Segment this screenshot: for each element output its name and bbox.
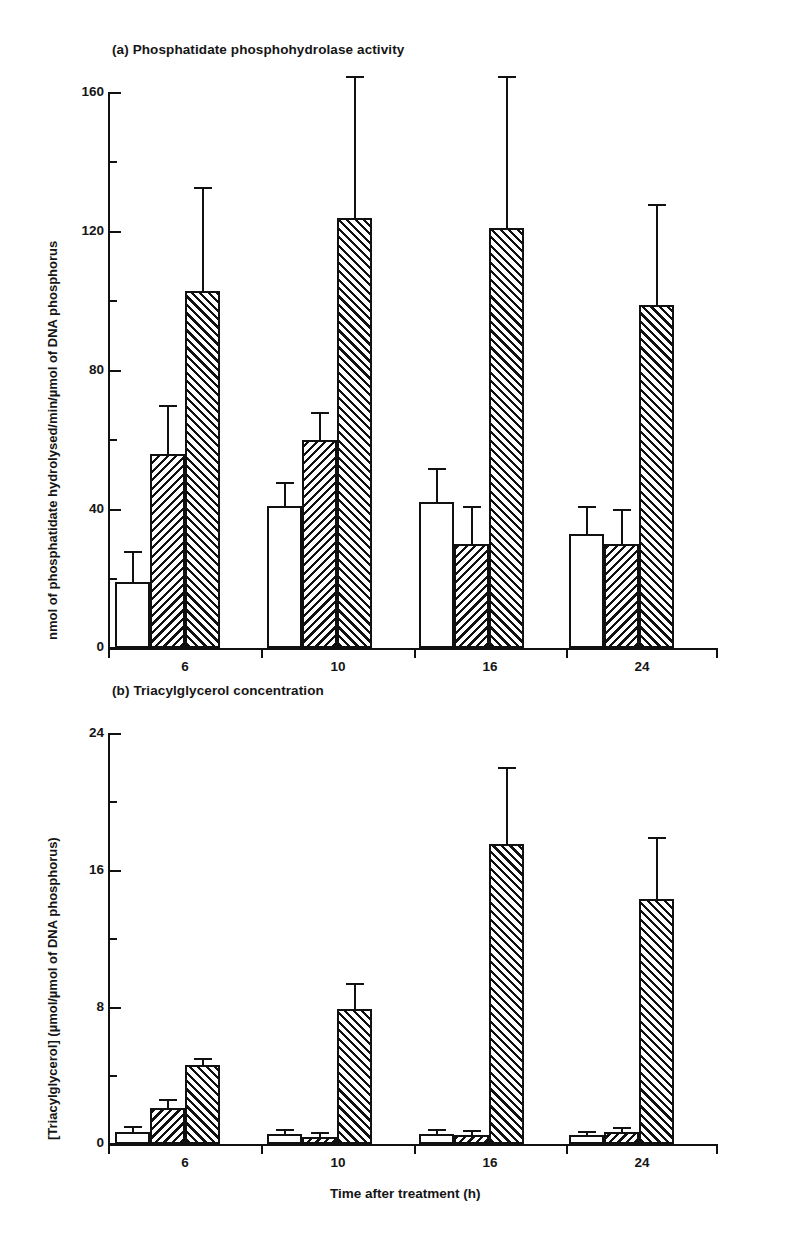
errorbar-cap-b-16h-open bbox=[428, 1129, 446, 1131]
panel-b-plot-area bbox=[110, 733, 718, 1144]
bar-b-6h-hatched-forwardslash bbox=[185, 1065, 220, 1144]
panel-b-xtick-sep-1 bbox=[108, 1146, 110, 1154]
panel-b-x-axis bbox=[108, 1144, 718, 1146]
errorbar-cap-b-16h-hatched-forwardslash bbox=[498, 767, 516, 769]
bar-b-24h-open bbox=[569, 1135, 604, 1144]
panel-b-xaxis-title: Time after treatment (h) bbox=[330, 1186, 481, 1201]
bar-b-6h-hatched-backslash bbox=[150, 1108, 185, 1144]
panel-b-ylabel-16: 16 bbox=[58, 862, 104, 877]
panel-b-xtick-sep-3 bbox=[414, 1146, 416, 1154]
panel-b-xlabel-24: 24 bbox=[612, 1155, 672, 1170]
errorbar-cap-b-6h-open bbox=[124, 1126, 142, 1128]
bar-b-10h-hatched-backslash bbox=[302, 1137, 337, 1144]
panel-b-ylabel: [Triacylglycerol] (µmol/µmol of DNA phos… bbox=[45, 837, 60, 1140]
figure-root: (a) Phosphatidate phosphohydrolase activ… bbox=[0, 0, 805, 1249]
panel-b: (b) Triacylglycerol concentration [Triac… bbox=[0, 0, 805, 1249]
panel-b-xlabel-10: 10 bbox=[308, 1155, 368, 1170]
bar-b-16h-hatched-backslash bbox=[454, 1135, 489, 1144]
bar-b-24h-hatched-backslash bbox=[604, 1132, 639, 1144]
errorbar-cap-b-24h-open bbox=[578, 1131, 596, 1133]
panel-b-xtick-sep-4 bbox=[566, 1146, 568, 1154]
errorbar-b-24h-hatched-forwardslash bbox=[656, 837, 658, 899]
errorbar-b-16h-hatched-forwardslash bbox=[506, 767, 508, 844]
panel-b-xlabel-16: 16 bbox=[460, 1155, 520, 1170]
bar-b-10h-hatched-forwardslash bbox=[337, 1009, 372, 1144]
errorbar-cap-b-10h-hatched-forwardslash bbox=[346, 983, 364, 985]
panel-b-ylabel-8: 8 bbox=[58, 999, 104, 1014]
panel-b-ylabel-0: 0 bbox=[58, 1135, 104, 1150]
bar-b-6h-open bbox=[115, 1132, 150, 1144]
panel-b-xlabel-6: 6 bbox=[155, 1155, 215, 1170]
panel-b-xtick-sep-5 bbox=[716, 1146, 718, 1154]
panel-b-xtick-sep-2 bbox=[261, 1146, 263, 1154]
errorbar-cap-b-16h-hatched-backslash bbox=[463, 1130, 481, 1132]
errorbar-cap-b-6h-hatched-backslash bbox=[159, 1099, 177, 1101]
bar-b-16h-hatched-forwardslash bbox=[489, 844, 524, 1144]
bar-b-24h-hatched-forwardslash bbox=[639, 899, 674, 1144]
errorbar-cap-b-24h-hatched-forwardslash bbox=[648, 837, 666, 839]
panel-b-title: (b) Triacylglycerol concentration bbox=[112, 683, 324, 698]
bar-b-10h-open bbox=[267, 1134, 302, 1144]
errorbar-cap-b-10h-hatched-backslash bbox=[311, 1132, 329, 1134]
bar-b-16h-open bbox=[419, 1134, 454, 1144]
errorbar-cap-b-6h-hatched-forwardslash bbox=[194, 1058, 212, 1060]
errorbar-cap-b-24h-hatched-backslash bbox=[613, 1127, 631, 1129]
panel-b-ylabel-24: 24 bbox=[58, 725, 104, 740]
errorbar-cap-b-10h-open bbox=[276, 1129, 294, 1131]
errorbar-b-10h-hatched-forwardslash bbox=[354, 983, 356, 1009]
